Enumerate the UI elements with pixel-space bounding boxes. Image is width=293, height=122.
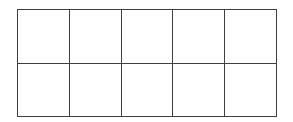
grid-cell-r2-c1 <box>18 64 70 118</box>
grid-cell-r1-c2 <box>70 10 122 64</box>
grid-cell-r1-c3 <box>122 10 174 64</box>
grid-cell-r2-c4 <box>173 64 225 118</box>
grid-cell-r1-c5 <box>225 10 277 64</box>
grid-cell-r1-c1 <box>18 10 70 64</box>
grid-cell-r2-c3 <box>122 64 174 118</box>
grid-cell-r1-c4 <box>173 10 225 64</box>
grid-cell-r2-c2 <box>70 64 122 118</box>
grid-cell-r2-c5 <box>225 64 277 118</box>
ten-frame-grid <box>17 9 277 117</box>
